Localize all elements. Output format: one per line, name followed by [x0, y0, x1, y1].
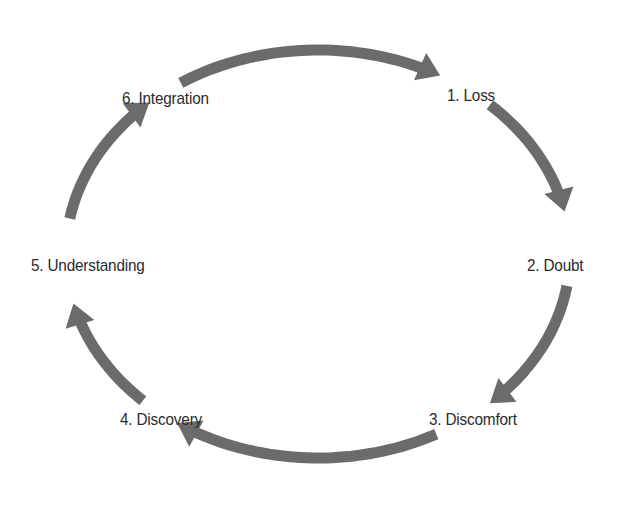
stage-label-loss: 1. Loss [447, 86, 495, 106]
arrow-understanding-to-integration [70, 102, 150, 218]
cycle-diagram [0, 0, 623, 506]
arrow-doubt-to-discomfort [490, 286, 567, 403]
arrow-integration-to-loss [181, 50, 440, 83]
arrow-discovery-to-understanding [66, 303, 143, 400]
stage-label-discomfort: 3. Discomfort [429, 410, 517, 430]
arrow-discomfort-to-discovery [177, 421, 436, 459]
arrow-shaft [490, 105, 561, 198]
stage-label-integration: 6. Integration [122, 89, 209, 109]
arrow-shaft [70, 112, 137, 219]
arrow-shaft [502, 286, 567, 394]
stage-label-doubt: 2. Doubt [527, 256, 583, 276]
arrow-shaft [78, 317, 143, 401]
arrow-shaft [192, 430, 437, 458]
arrow-loss-to-doubt [490, 105, 574, 212]
stage-label-understanding: 5. Understanding [31, 256, 145, 276]
stage-label-discovery: 4. Discovery [120, 410, 202, 430]
arrow-shaft [181, 50, 425, 83]
